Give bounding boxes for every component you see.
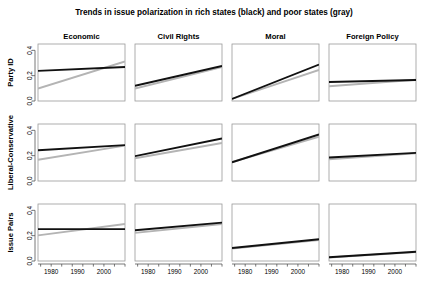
panel-liberal-conservative-economic: 0.00.20.4 — [26, 124, 125, 185]
x-tick-label: 1980 — [238, 268, 253, 275]
panel-party-id-economic: 0.00.20.4 — [26, 44, 125, 105]
y-tick-label: 0.4 — [26, 45, 33, 54]
x-tick-label: 1990 — [70, 268, 85, 275]
row-title-issue-pairs: Issue Pairs — [6, 212, 15, 252]
x-tick-label: 1990 — [361, 268, 376, 275]
y-tick-label: 0.0 — [26, 96, 33, 105]
x-tick-label: 1980 — [141, 268, 156, 275]
y-tick-label: 0.2 — [26, 231, 33, 240]
x-tick-label: 2000 — [194, 268, 209, 275]
x-tick-label: 1980 — [44, 268, 59, 275]
panel-party-id-foreign-policy — [329, 44, 416, 101]
panel-frame — [135, 44, 222, 101]
chart-figure: Trends in issue polarization in rich sta… — [0, 0, 428, 297]
column-title-foreign-policy: Foreign Policy — [346, 32, 399, 41]
panels-layer: EconomicCivil RightsMoralForeign PolicyP… — [6, 32, 416, 275]
y-tick-label: 0.0 — [26, 176, 33, 185]
panel-frame — [232, 44, 319, 101]
panel-party-id-civil-rights — [135, 44, 222, 101]
y-tick-label: 0.2 — [26, 151, 33, 160]
panel-issue-pairs-economic: 0.00.20.4198019902000 — [26, 204, 125, 275]
panel-issue-pairs-foreign-policy: 198019902000 — [329, 204, 416, 275]
x-tick-label: 2000 — [388, 268, 403, 275]
column-title-economic: Economic — [63, 32, 99, 41]
panel-frame — [329, 124, 416, 181]
y-tick-label: 0.4 — [26, 205, 33, 214]
column-title-civil-rights: Civil Rights — [158, 32, 200, 41]
panel-frame — [135, 124, 222, 181]
x-tick-label: 1990 — [167, 268, 182, 275]
trends-small-multiples-chart: Trends in issue polarization in rich sta… — [0, 0, 428, 297]
panel-frame — [38, 44, 125, 101]
panel-liberal-conservative-moral — [232, 124, 319, 181]
panel-issue-pairs-moral: 198019902000 — [232, 204, 319, 275]
y-tick-label: 0.4 — [26, 125, 33, 134]
panel-liberal-conservative-civil-rights — [135, 124, 222, 181]
panel-frame — [232, 124, 319, 181]
x-tick-label: 1980 — [335, 268, 350, 275]
column-title-moral: Moral — [265, 32, 285, 41]
panel-issue-pairs-civil-rights: 198019902000 — [135, 204, 222, 275]
y-tick-label: 0.0 — [26, 256, 33, 265]
y-tick-label: 0.2 — [26, 71, 33, 80]
panel-frame — [232, 204, 319, 261]
row-title-party-id: Party ID — [6, 58, 15, 87]
panel-frame — [38, 204, 125, 261]
x-tick-label: 2000 — [291, 268, 306, 275]
panel-party-id-moral — [232, 44, 319, 101]
panel-frame — [329, 44, 416, 101]
panel-liberal-conservative-foreign-policy — [329, 124, 416, 181]
row-title-liberal-conservative: Liberal-Conservative — [6, 115, 15, 190]
x-tick-label: 1990 — [264, 268, 279, 275]
x-tick-label: 2000 — [97, 268, 112, 275]
chart-title: Trends in issue polarization in rich sta… — [75, 8, 353, 17]
